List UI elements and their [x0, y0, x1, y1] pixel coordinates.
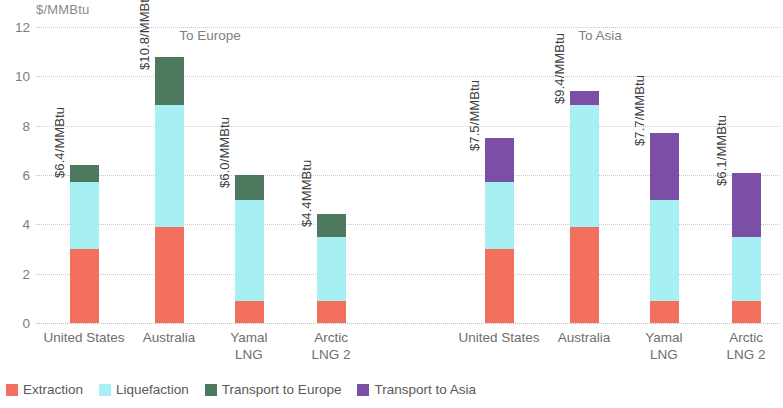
y-axis-tick-12: 12	[0, 20, 30, 35]
bar-to-europe-australia[interactable]	[155, 57, 184, 323]
bar-segment-transport-to-asia[interactable]	[650, 133, 679, 200]
bar-segment-extraction[interactable]	[235, 301, 264, 323]
value-label-to-asia-arctic-lng-2: $6.1/MMBtu	[714, 114, 729, 185]
gridline-10	[36, 76, 780, 77]
legend-label: Extraction	[23, 382, 83, 397]
legend-swatch-transport-to-europe-icon	[205, 384, 217, 396]
legend-item-extraction[interactable]: Extraction	[6, 382, 83, 397]
bar-segment-extraction[interactable]	[485, 249, 514, 323]
value-label-to-europe-united-states: $6.4/MMBtu	[52, 107, 67, 178]
legend-label: Liquefaction	[116, 382, 189, 397]
bar-segment-transport-to-europe[interactable]	[235, 175, 264, 200]
legend-item-liquefaction[interactable]: Liquefaction	[99, 382, 189, 397]
bar-segment-extraction[interactable]	[570, 227, 599, 323]
x-axis-label-europe-arctic-lng-2: Arctic LNG 2	[286, 330, 376, 364]
bar-segment-extraction[interactable]	[70, 249, 99, 323]
panel-title-to-europe: To Europe	[40, 28, 380, 43]
x-axis-label-europe-australia: Australia	[124, 330, 214, 347]
bar-segment-liquefaction[interactable]	[317, 237, 346, 301]
bar-segment-transport-to-asia[interactable]	[485, 138, 514, 182]
x-axis-label-europe-yamal-lng: Yamal LNG	[204, 330, 294, 364]
legend-item-transport-to-asia[interactable]: Transport to Asia	[357, 382, 476, 397]
bar-segment-liquefaction[interactable]	[650, 200, 679, 301]
legend-swatch-transport-to-asia-icon	[357, 384, 369, 396]
bar-segment-liquefaction[interactable]	[70, 182, 99, 249]
panel-title-to-asia: To Asia	[430, 28, 770, 43]
bar-to-asia-yamal-lng[interactable]	[650, 133, 679, 323]
bar-segment-transport-to-europe[interactable]	[317, 214, 346, 236]
y-axis-tick-6: 6	[0, 168, 30, 183]
x-axis-label-asia-yamal-lng: Yamal LNG	[619, 330, 709, 364]
y-axis-tick-10: 10	[0, 69, 30, 84]
x-axis-label-asia-arctic-lng-2: Arctic LNG 2	[701, 330, 783, 364]
x-axis-label-asia-australia: Australia	[539, 330, 629, 347]
bar-segment-liquefaction[interactable]	[235, 200, 264, 301]
bar-segment-transport-to-asia[interactable]	[570, 91, 599, 105]
bar-segment-liquefaction[interactable]	[570, 105, 599, 227]
chart-legend: ExtractionLiquefactionTransport to Europ…	[6, 382, 476, 397]
lng-cost-chart: $/MMBtu 024681012 $6.4/MMBtu$10.8/MMBtu$…	[0, 0, 783, 408]
y-axis-tick-4: 4	[0, 217, 30, 232]
legend-swatch-extraction-icon	[6, 384, 18, 396]
y-axis-tick-2: 2	[0, 266, 30, 281]
legend-label: Transport to Europe	[222, 382, 342, 397]
bar-to-asia-australia[interactable]	[570, 91, 599, 323]
bar-segment-extraction[interactable]	[732, 301, 761, 323]
bar-segment-transport-to-europe[interactable]	[155, 57, 184, 105]
bar-segment-extraction[interactable]	[317, 301, 346, 323]
value-label-to-asia-united-states: $7.5/MMBtu	[467, 80, 482, 151]
bar-segment-liquefaction[interactable]	[732, 237, 761, 301]
y-axis-unit-label: $/MMBtu	[36, 2, 89, 17]
gridline-0	[36, 323, 780, 324]
bar-segment-liquefaction[interactable]	[485, 182, 514, 249]
legend-item-transport-to-europe[interactable]: Transport to Europe	[205, 382, 342, 397]
plot-area: $6.4/MMBtu$10.8/MMBtu$6.0/MMBtu$4.4MMBtu…	[36, 27, 780, 323]
bar-segment-liquefaction[interactable]	[155, 105, 184, 227]
value-label-to-europe-arctic-lng-2: $4.4MMBtu	[299, 160, 314, 227]
value-label-to-asia-australia: $9.4/MMBtu	[552, 33, 567, 104]
bar-to-europe-united-states[interactable]	[70, 165, 99, 323]
x-axis-label-europe-united-states: United States	[39, 330, 129, 347]
bar-segment-transport-to-europe[interactable]	[70, 165, 99, 182]
bar-to-asia-arctic-lng-2[interactable]	[732, 173, 761, 323]
bar-segment-transport-to-asia[interactable]	[732, 173, 761, 237]
x-axis-label-asia-united-states: United States	[454, 330, 544, 347]
y-axis-tick-0: 0	[0, 316, 30, 331]
bar-segment-extraction[interactable]	[155, 227, 184, 323]
bar-to-europe-arctic-lng-2[interactable]	[317, 214, 346, 323]
bar-to-asia-united-states[interactable]	[485, 138, 514, 323]
value-label-to-asia-yamal-lng: $7.7/MMBtu	[632, 75, 647, 146]
gridline-8	[36, 126, 780, 127]
bar-to-europe-yamal-lng[interactable]	[235, 175, 264, 323]
legend-swatch-liquefaction-icon	[99, 384, 111, 396]
legend-label: Transport to Asia	[374, 382, 476, 397]
bar-segment-extraction[interactable]	[650, 301, 679, 323]
value-label-to-europe-yamal-lng: $6.0/MMBtu	[217, 117, 232, 188]
y-axis-tick-8: 8	[0, 118, 30, 133]
